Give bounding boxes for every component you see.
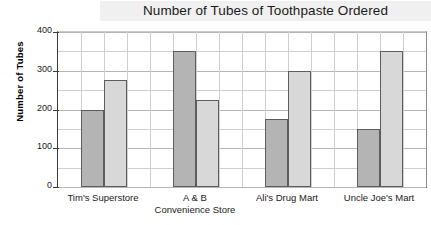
- gridline-vertical: [150, 32, 151, 187]
- y-axis-tick: [53, 71, 59, 72]
- y-axis-tick-label: 300: [12, 64, 52, 74]
- y-axis-tick-label: 400: [12, 25, 52, 35]
- gridline-vertical: [242, 32, 243, 187]
- bar: [173, 51, 196, 187]
- y-axis-tick-label: 100: [12, 141, 52, 151]
- y-axis-tick-label: 0: [12, 180, 52, 190]
- y-axis-tick: [53, 32, 59, 33]
- bar: [81, 110, 104, 188]
- y-axis-tick: [53, 148, 59, 149]
- bar: [196, 100, 219, 187]
- gridline-vertical: [403, 32, 404, 187]
- plot-area: [57, 31, 427, 188]
- gridline-vertical: [219, 32, 220, 187]
- x-axis-category-label: Uncle Joe's Mart: [315, 192, 431, 204]
- bar: [265, 119, 288, 187]
- y-axis-tick-label: 200: [12, 103, 52, 113]
- gridline-vertical: [334, 32, 335, 187]
- bar-chart-figure: Number of Tubes of Toothpaste Ordered Nu…: [0, 0, 431, 225]
- y-axis-title: Number of Tubes: [14, 27, 25, 137]
- gridline-vertical: [311, 32, 312, 187]
- y-axis-tick: [53, 110, 59, 111]
- bar: [380, 51, 403, 187]
- y-axis-tick: [53, 187, 59, 188]
- gridline-horizontal: [58, 187, 426, 188]
- chart-title: Number of Tubes of Toothpaste Ordered: [100, 1, 431, 21]
- bar: [357, 129, 380, 187]
- bar: [288, 71, 311, 187]
- bar: [104, 80, 127, 187]
- gridline-vertical: [127, 32, 128, 187]
